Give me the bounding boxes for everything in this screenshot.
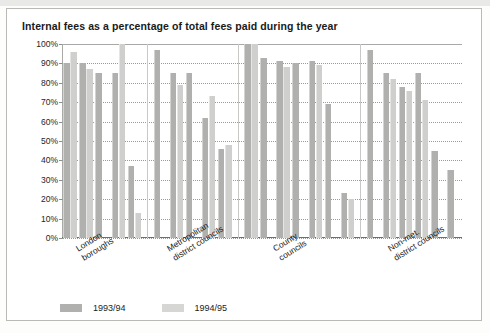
- page-top-band: [0, 0, 490, 6]
- bar: [170, 73, 176, 238]
- legend-item-1994-95[interactable]: 1994/95: [162, 303, 264, 313]
- bar-highlight: [422, 100, 423, 238]
- y-tick-label-10: 10%: [18, 214, 58, 224]
- bar-highlight: [251, 44, 252, 238]
- bar: [406, 91, 412, 238]
- bar-highlight: [186, 73, 187, 238]
- y-tick-label-100: 100%: [18, 39, 58, 49]
- bar-highlight: [135, 213, 136, 238]
- bar-highlight: [128, 166, 129, 238]
- bar-highlight: [177, 85, 178, 238]
- bar: [383, 73, 389, 238]
- y-tick-40: [59, 160, 62, 161]
- y-tick-label-40: 40%: [18, 155, 58, 165]
- bar-highlight: [348, 199, 349, 238]
- bar-highlight: [399, 87, 400, 238]
- bar: [135, 213, 141, 238]
- bar: [283, 67, 289, 238]
- bar: [70, 52, 76, 238]
- bar-highlight: [63, 63, 64, 238]
- y-tick-label-90: 90%: [18, 58, 58, 68]
- bar: [177, 85, 183, 238]
- legend-swatch-icon: [162, 304, 184, 312]
- y-tick-label-0: 0%: [18, 233, 58, 243]
- y-tick-20: [59, 199, 62, 200]
- bar: [309, 61, 315, 238]
- y-tick-30: [59, 180, 62, 181]
- y-tick-60: [59, 122, 62, 123]
- bar: [112, 73, 118, 238]
- bar-highlight: [367, 50, 368, 238]
- legend-item-1993-94[interactable]: 1993/94: [60, 303, 162, 313]
- bar: [86, 69, 92, 238]
- bar-highlight: [119, 44, 120, 238]
- y-tick-label-60: 60%: [18, 117, 58, 127]
- bar: [415, 73, 421, 238]
- bar-highlight: [170, 73, 171, 238]
- bar: [244, 44, 250, 238]
- y-tick-100: [59, 44, 62, 45]
- bar: [79, 63, 85, 238]
- figure-page: Internal fees as a percentage of total f…: [0, 0, 490, 333]
- bar: [186, 73, 192, 238]
- bar-highlight: [86, 69, 87, 238]
- bar-highlight: [447, 170, 448, 238]
- bar: [260, 58, 266, 238]
- y-tick-label-70: 70%: [18, 97, 58, 107]
- y-tick-0: [59, 238, 62, 239]
- legend-label: 1993/94: [93, 303, 126, 313]
- plot-area: [62, 44, 462, 238]
- bar-highlight: [415, 73, 416, 238]
- bar-highlight: [154, 50, 155, 238]
- legend-swatch-icon: [60, 304, 82, 312]
- bar: [447, 170, 453, 238]
- bar-highlight: [112, 73, 113, 238]
- bar-highlight: [325, 104, 326, 238]
- bar: [367, 50, 373, 238]
- bar: [348, 199, 354, 238]
- y-tick-70: [59, 102, 62, 103]
- chart-title: Internal fees as a percentage of total f…: [22, 20, 338, 32]
- bar-highlight: [309, 61, 310, 238]
- bar-highlight: [276, 61, 277, 238]
- y-tick-label-30: 30%: [18, 175, 58, 185]
- bar-highlight: [316, 65, 317, 238]
- bar: [95, 73, 101, 238]
- bar: [399, 87, 405, 238]
- bar-highlight: [292, 63, 293, 238]
- y-tick-label-20: 20%: [18, 194, 58, 204]
- bar-highlight: [406, 91, 407, 238]
- bar: [63, 63, 69, 238]
- y-tick-label-50: 50%: [18, 136, 58, 146]
- y-tick-10: [59, 219, 62, 220]
- bar-highlight: [70, 52, 71, 238]
- bar: [225, 145, 231, 238]
- bar-highlight: [390, 79, 391, 238]
- y-tick-90: [59, 63, 62, 64]
- group-separator: [238, 44, 239, 238]
- bar-highlight: [95, 73, 96, 238]
- bar-highlight: [225, 145, 226, 238]
- bar: [341, 193, 347, 238]
- y-tick-label-80: 80%: [18, 78, 58, 88]
- bar: [292, 63, 298, 238]
- legend-label: 1994/95: [195, 303, 228, 313]
- bar: [390, 79, 396, 238]
- bar-highlight: [283, 67, 284, 238]
- bar: [251, 44, 257, 238]
- bar-highlight: [260, 58, 261, 238]
- bar: [276, 61, 282, 238]
- bar: [325, 104, 331, 238]
- y-tick-80: [59, 83, 62, 84]
- y-tick-50: [59, 141, 62, 142]
- chart-legend: 1993/941994/95: [60, 303, 263, 313]
- y-axis-labels: 100%90%80%70%60%50%40%30%20%10%0%: [14, 44, 58, 238]
- bar: [316, 65, 322, 238]
- bar: [422, 100, 428, 238]
- bar: [128, 166, 134, 238]
- bar-highlight: [383, 73, 384, 238]
- bar-highlight: [79, 63, 80, 238]
- bar-highlight: [341, 193, 342, 238]
- bar: [119, 44, 125, 238]
- group-separator: [360, 44, 361, 238]
